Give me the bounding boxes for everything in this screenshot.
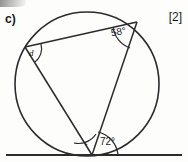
- angle-label-72: 72°: [100, 137, 115, 147]
- angle-label-d: d: [29, 49, 34, 58]
- question-figure-panel: c) [2] 58° 72° c d: [0, 0, 188, 162]
- angle-label-c: c: [85, 139, 89, 147]
- chord-left-to-bottom: [25, 47, 92, 155]
- angle-arc-d: [35, 44, 42, 62]
- circle-theorem-diagram: [0, 0, 188, 162]
